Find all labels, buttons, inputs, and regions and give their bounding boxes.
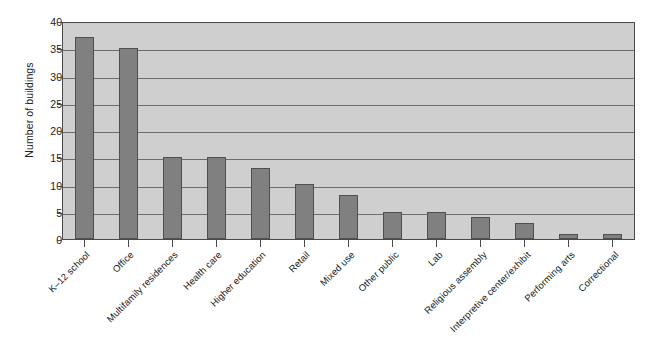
x-tick-slot bbox=[503, 240, 547, 248]
bar bbox=[119, 48, 138, 239]
x-label-slot: Performing arts bbox=[547, 249, 591, 354]
x-tick-mark bbox=[172, 240, 173, 247]
bar-slot bbox=[546, 23, 590, 239]
bar bbox=[427, 212, 446, 239]
bar bbox=[515, 223, 534, 239]
x-label-slot: Higher education bbox=[238, 249, 282, 354]
bar-slot bbox=[327, 23, 371, 239]
x-tick-mark bbox=[392, 240, 393, 247]
x-tick-mark bbox=[128, 240, 129, 247]
x-tick-slot bbox=[238, 240, 282, 248]
bar-slot bbox=[414, 23, 458, 239]
bar-slot bbox=[63, 23, 107, 239]
x-tick-mark bbox=[568, 240, 569, 247]
bar bbox=[295, 184, 314, 239]
x-tick-slot bbox=[415, 240, 459, 248]
bar-chart: Number of buildings 0510152025303540 K–1… bbox=[0, 0, 661, 356]
x-label-slot: Multifamily residences bbox=[150, 249, 194, 354]
x-label-slot: Interpretive center/exhibit bbox=[503, 249, 547, 354]
x-tick-mark bbox=[84, 240, 85, 247]
x-tick-slot bbox=[150, 240, 194, 248]
x-tick-mark bbox=[348, 240, 349, 247]
x-tick-slot bbox=[547, 240, 591, 248]
x-tick-mark bbox=[436, 240, 437, 247]
x-axis-ticks bbox=[62, 240, 635, 248]
bar-slot bbox=[283, 23, 327, 239]
x-label-slot: Other public bbox=[371, 249, 415, 354]
x-tick-mark bbox=[524, 240, 525, 247]
x-label-slot: K–12 school bbox=[62, 249, 106, 354]
bar bbox=[251, 168, 270, 239]
x-label-slot: Retail bbox=[282, 249, 326, 354]
bar bbox=[383, 212, 402, 239]
x-tick-slot bbox=[326, 240, 370, 248]
bar bbox=[339, 195, 358, 239]
x-tick-mark bbox=[612, 240, 613, 247]
x-label-slot: Mixed use bbox=[326, 249, 370, 354]
x-tick-slot bbox=[282, 240, 326, 248]
x-label-slot: Correctional bbox=[591, 249, 635, 354]
x-tick-mark bbox=[480, 240, 481, 247]
x-tick-slot bbox=[371, 240, 415, 248]
x-tick-slot bbox=[106, 240, 150, 248]
bar-slot bbox=[590, 23, 634, 239]
bars-container bbox=[63, 23, 634, 239]
x-tick-label: Office bbox=[110, 249, 136, 275]
x-tick-label: Lab bbox=[425, 249, 444, 268]
x-tick-mark bbox=[216, 240, 217, 247]
bar-slot bbox=[370, 23, 414, 239]
x-tick-slot bbox=[459, 240, 503, 248]
x-tick-mark bbox=[260, 240, 261, 247]
x-tick-slot bbox=[62, 240, 106, 248]
bar bbox=[207, 157, 226, 239]
bar-slot bbox=[195, 23, 239, 239]
bar-slot bbox=[239, 23, 283, 239]
x-tick-mark bbox=[304, 240, 305, 247]
bar bbox=[75, 37, 94, 239]
bar bbox=[471, 217, 490, 239]
plot-area bbox=[62, 22, 635, 240]
bar bbox=[603, 234, 622, 239]
x-tick-label: K–12 school bbox=[46, 249, 92, 295]
bar-slot bbox=[107, 23, 151, 239]
x-axis-labels: K–12 schoolOfficeMultifamily residencesH… bbox=[62, 249, 635, 354]
y-axis-ticks: 0510152025303540 bbox=[30, 22, 62, 240]
x-tick-slot bbox=[194, 240, 238, 248]
bar bbox=[559, 234, 578, 239]
x-tick-label: Retail bbox=[287, 249, 312, 274]
bar-slot bbox=[151, 23, 195, 239]
bar-slot bbox=[458, 23, 502, 239]
bar bbox=[163, 157, 182, 239]
bar-slot bbox=[502, 23, 546, 239]
x-tick-slot bbox=[591, 240, 635, 248]
